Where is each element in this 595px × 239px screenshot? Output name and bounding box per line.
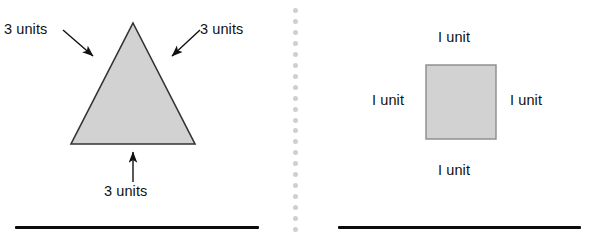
divider-dot: [293, 63, 298, 68]
divider-dot: [293, 118, 298, 123]
divider-dot: [293, 19, 298, 24]
divider-dot: [293, 107, 298, 112]
divider-dot: [293, 8, 298, 13]
divider-dot: [293, 216, 298, 221]
triangle-right-arrow: [172, 30, 200, 56]
divider-dot: [293, 139, 298, 144]
divider-dot: [293, 41, 298, 46]
divider-dot: [293, 205, 298, 210]
square-shape: [426, 65, 496, 139]
divider-dot: [293, 52, 298, 57]
divider-dot: [293, 150, 298, 155]
divider-dot: [293, 74, 298, 79]
divider-dot: [293, 128, 298, 133]
triangle-shape: [71, 23, 195, 144]
divider-dot: [293, 172, 298, 177]
left-bottom-rule: [15, 226, 259, 229]
right-bottom-rule: [338, 226, 581, 229]
divider-dot: [293, 227, 298, 232]
divider-dot: [293, 194, 298, 199]
divider-dot: [293, 161, 298, 166]
divider-dot: [293, 183, 298, 188]
divider-dot: [293, 30, 298, 35]
figure-canvas: 3 units 3 units 3 units I unit I unit I …: [0, 0, 595, 239]
triangle-left-arrow: [63, 30, 93, 56]
divider-dot: [293, 96, 298, 101]
dotted-divider: [293, 8, 302, 232]
divider-dot: [293, 85, 298, 90]
